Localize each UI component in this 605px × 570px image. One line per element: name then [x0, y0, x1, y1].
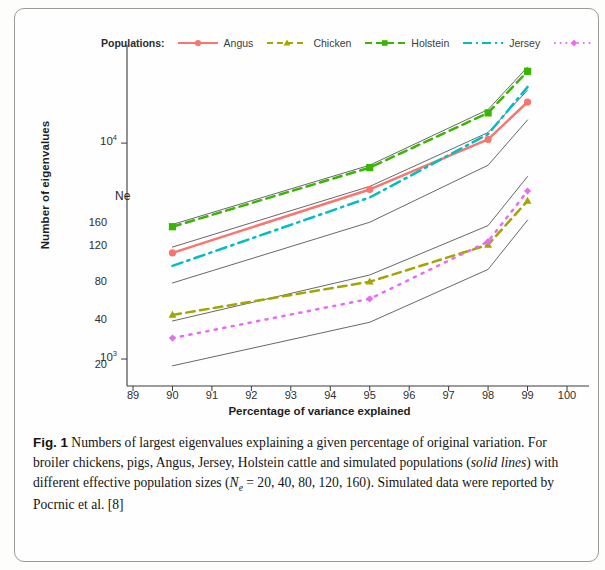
- figure-page: Populations: Angus Chicken: [0, 0, 605, 570]
- x-tick-label-89: 89: [118, 389, 148, 401]
- x-tick-label-93: 93: [276, 389, 306, 401]
- x-tick-label-96: 96: [394, 389, 424, 401]
- ne-heading-label: Ne: [115, 189, 130, 203]
- x-tick-label-99: 99: [513, 389, 543, 401]
- series-marker-holstein: [169, 223, 176, 230]
- series-line-chicken: [172, 201, 527, 315]
- x-tick-label-90: 90: [157, 389, 187, 401]
- series-marker-chicken: [524, 197, 532, 204]
- x-tick-label-91: 91: [197, 389, 227, 401]
- series-line-pigs: [172, 191, 527, 338]
- chart-area: Populations: Angus Chicken: [15, 9, 599, 419]
- ne-label-120: 120: [71, 239, 107, 251]
- ne-label-80: 80: [71, 275, 107, 287]
- series-marker-pigs: [524, 187, 531, 194]
- series-marker-holstein: [366, 164, 373, 171]
- ne-label-160: 160: [71, 216, 107, 228]
- caption-text-part1: Numbers of largest eigenvalues explainin…: [33, 435, 547, 470]
- series-marker-pigs: [169, 334, 176, 341]
- series-marker-pigs: [366, 295, 373, 302]
- x-tick-label-94: 94: [315, 389, 345, 401]
- x-tick-label-92: 92: [236, 389, 266, 401]
- series-marker-angus: [169, 249, 176, 256]
- x-tick-label-98: 98: [473, 389, 503, 401]
- series-marker-angus: [524, 98, 531, 105]
- simulated-line-ne-120: [172, 90, 527, 247]
- x-tick-label-97: 97: [434, 389, 464, 401]
- series-marker-holstein: [484, 109, 491, 116]
- y-tick-label-10000: 104: [47, 133, 117, 147]
- caption-ne-symbol: N: [230, 475, 239, 490]
- series-line-jersey: [172, 87, 527, 266]
- ne-label-40: 40: [71, 313, 107, 325]
- x-tick-label-95: 95: [355, 389, 385, 401]
- simulated-line-ne-20: [172, 220, 527, 366]
- series-marker-angus: [484, 136, 491, 143]
- caption-figure-number: Fig. 1: [33, 435, 68, 450]
- figure-panel: Populations: Angus Chicken: [14, 8, 599, 562]
- series-marker-angus: [366, 186, 373, 193]
- figure-caption: Fig. 1 Numbers of largest eigenvalues ex…: [33, 433, 585, 515]
- series-marker-holstein: [524, 68, 531, 75]
- ne-label-20: 20: [71, 358, 107, 370]
- caption-italic-solid-lines: solid lines: [471, 455, 527, 470]
- x-tick-label-100: 100: [552, 389, 582, 401]
